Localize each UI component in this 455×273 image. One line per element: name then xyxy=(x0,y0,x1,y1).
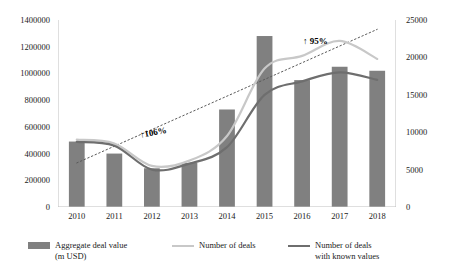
plot-area xyxy=(58,20,396,207)
legend-item[interactable]: Number of deals with known values xyxy=(288,240,379,261)
x-axis-tick-2017: 2017 xyxy=(320,212,360,221)
y-axis-left-tick: 600000 xyxy=(2,123,50,132)
x-axis-tick-2011: 2011 xyxy=(94,212,134,221)
y-axis-right-tick: 5000 xyxy=(406,166,454,175)
y-axis-right-tick: 0 xyxy=(406,203,454,212)
y-axis-right-tick: 15000 xyxy=(406,91,454,100)
legend-label: Number of deals with known values xyxy=(315,240,379,261)
y-axis-left-tick: 1000000 xyxy=(2,69,50,78)
x-axis-tick-2018: 2018 xyxy=(357,212,397,221)
x-axis-tick-2014: 2014 xyxy=(207,212,247,221)
chart-legend: Aggregate deal value (m USD)Number of de… xyxy=(0,238,455,273)
plot-svg xyxy=(58,20,396,207)
bar-2018 xyxy=(369,71,385,207)
bar-2012 xyxy=(144,168,160,207)
bar-2017 xyxy=(332,67,348,207)
y-axis-left-tick: 400000 xyxy=(2,150,50,159)
bar-2013 xyxy=(182,163,198,207)
y-axis-left-tick: 200000 xyxy=(2,176,50,185)
chart-container: 0200000400000600000800000100000012000001… xyxy=(0,0,455,273)
legend-swatch-bar-icon xyxy=(28,242,50,249)
bar-2015 xyxy=(257,36,273,207)
x-axis-tick-2015: 2015 xyxy=(245,212,285,221)
legend-label: Number of deals xyxy=(199,240,256,251)
y-axis-left-tick: 1400000 xyxy=(2,16,50,25)
y-axis-right-tick: 10000 xyxy=(406,128,454,137)
y-axis-left-tick: 1200000 xyxy=(2,43,50,52)
x-axis-tick-2016: 2016 xyxy=(282,212,322,221)
y-axis-right-tick: 20000 xyxy=(406,53,454,62)
legend-label: Aggregate deal value (m USD) xyxy=(55,240,127,261)
x-axis-tick-2010: 2010 xyxy=(57,212,97,221)
y-axis-left-tick: 800000 xyxy=(2,96,50,105)
legend-item[interactable]: Aggregate deal value (m USD) xyxy=(28,240,127,261)
bar-2014 xyxy=(219,109,235,207)
x-axis-tick-2013: 2013 xyxy=(169,212,209,221)
x-axis-tick-2012: 2012 xyxy=(132,212,172,221)
legend-swatch-line-icon xyxy=(172,245,194,247)
annotation-growth-deals: ↑ 95% xyxy=(303,36,328,46)
legend-item[interactable]: Number of deals xyxy=(172,240,256,251)
bar-2011 xyxy=(106,154,122,207)
bar-2016 xyxy=(294,80,310,207)
bar-2010 xyxy=(69,142,85,207)
legend-swatch-line-icon xyxy=(288,245,310,247)
y-axis-left-tick: 0 xyxy=(2,203,50,212)
y-axis-right-tick: 25000 xyxy=(406,16,454,25)
